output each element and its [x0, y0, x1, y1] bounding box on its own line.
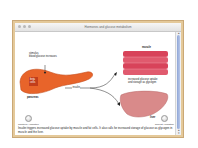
continue-animation-button[interactable]: Continue Animation [18, 115, 39, 126]
minimize-window-icon[interactable] [23, 25, 26, 28]
continue-button-icon[interactable] [25, 115, 32, 122]
beta-cells-label-2: cells [30, 81, 35, 84]
liver-illustration [120, 91, 168, 117]
repeat-animation-button[interactable]: Repeat Animation [155, 115, 174, 126]
stimulus-detail: blood glucose increases [29, 55, 57, 58]
response-line-2: and storage as glycogen [128, 81, 156, 84]
zoom-window-icon[interactable] [28, 25, 31, 28]
pancreas-label: pancreas [27, 96, 38, 99]
insulin-label: insulin [72, 86, 80, 89]
close-window-icon[interactable] [18, 25, 21, 28]
scroll-down-icon[interactable]: ▾ [176, 132, 181, 135]
title-bar[interactable]: Hormones and glucose metabolism [15, 23, 181, 32]
muscle-label: muscle [142, 46, 151, 49]
animation-content: stimulus blood glucose increases beta ce… [15, 32, 181, 135]
window-controls [18, 25, 31, 28]
caption-text: Insulin triggers increased glucose uptak… [18, 127, 173, 134]
window-title: Hormones and glucose metabolism [55, 23, 161, 31]
app-window: Hormones and glucose metabolism [12, 20, 184, 138]
scroll-thumb[interactable] [177, 35, 180, 129]
insulin-diagram [15, 32, 175, 122]
vertical-scrollbar[interactable]: ▴ ▴ ▾ [175, 32, 181, 135]
muscle-illustration [123, 51, 168, 75]
arrowhead-liver [117, 102, 120, 106]
repeat-button-icon[interactable] [161, 115, 168, 122]
insulin-path-liver [90, 88, 119, 104]
